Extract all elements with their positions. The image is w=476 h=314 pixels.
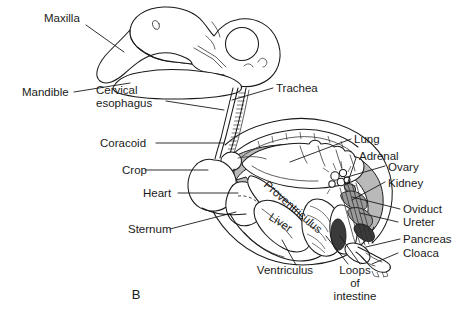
label-sternum: Sternum <box>128 223 171 235</box>
trachea-rail-left <box>220 88 238 158</box>
label-loops-line2: of <box>350 277 360 289</box>
label-kidney: Kidney <box>388 177 423 189</box>
label-lung: Lung <box>354 133 380 145</box>
leader-cloaca <box>372 253 398 264</box>
figure-page: Maxilla Mandible Cervical esophagus Cora… <box>0 0 476 314</box>
label-ovary: Ovary <box>388 161 419 173</box>
label-oviduct: Oviduct <box>403 203 443 215</box>
label-heart: Heart <box>143 187 172 199</box>
label-ventriculus: Ventriculus <box>257 264 314 276</box>
label-crop: Crop <box>122 164 147 176</box>
label-trachea: Trachea <box>276 82 318 94</box>
label-pancreas: Pancreas <box>403 233 452 245</box>
label-coracoid: Coracoid <box>100 137 146 149</box>
label-cloaca: Cloaca <box>403 247 439 259</box>
label-mandible: Mandible <box>22 86 69 98</box>
figure-caption: B <box>132 287 141 302</box>
label-cervical-esophagus-line2: esophagus <box>96 97 153 109</box>
label-cervical-esophagus-line1: Cervical <box>96 84 138 96</box>
label-maxilla: Maxilla <box>44 12 80 24</box>
ovary-follicle-2 <box>339 169 346 176</box>
leader-sternum <box>170 212 236 229</box>
label-ureter: Ureter <box>403 216 435 228</box>
ovary-follicle-1 <box>331 172 339 180</box>
label-loops-line1: Loops <box>339 264 371 276</box>
neck-group <box>215 88 249 160</box>
leader-cervical-esophagus <box>166 101 224 110</box>
label-loops-line3: intestine <box>334 290 377 302</box>
leader-maxilla <box>86 25 124 52</box>
avian-anatomy-figure: Maxilla Mandible Cervical esophagus Cora… <box>0 0 476 314</box>
cervical-esophagus-outline <box>215 88 233 159</box>
ovary-follicle-4 <box>329 181 335 187</box>
